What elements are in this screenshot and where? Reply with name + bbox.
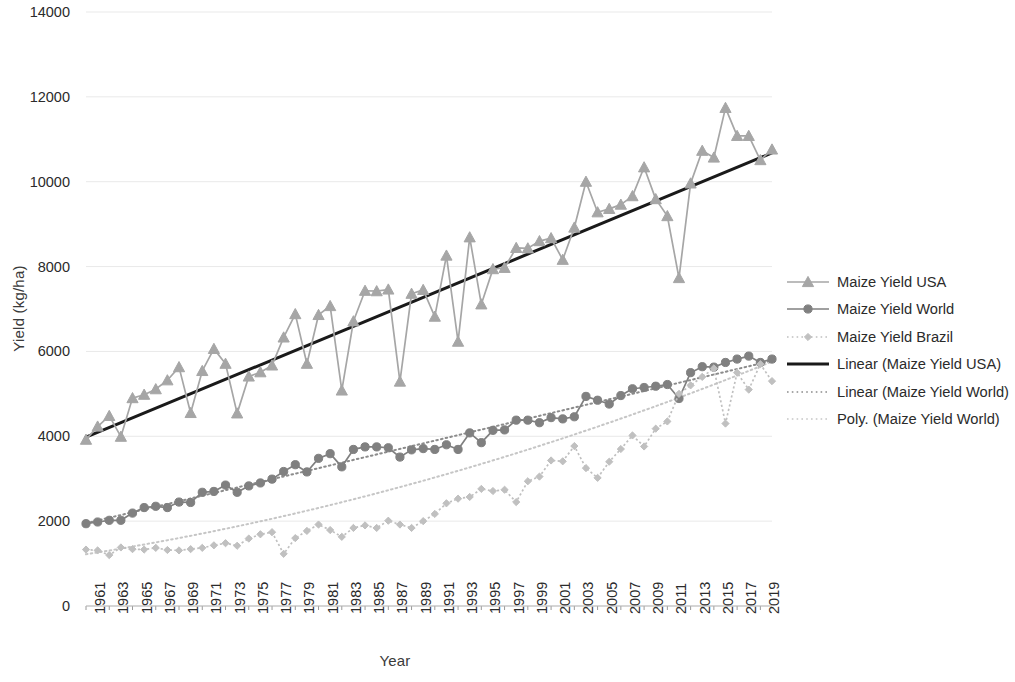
legend-item[interactable]: Linear (Maize Yield USA): [786, 351, 1015, 379]
y-tick-label: 0: [8, 598, 70, 614]
legend-swatch-icon: [786, 412, 830, 426]
x-tick-label: 1973: [232, 582, 248, 614]
x-tick-label: 2001: [557, 582, 573, 614]
trendline: [86, 362, 772, 555]
y-tick-label: 4000: [8, 428, 70, 444]
legend-label: Linear (Maize Yield USA): [837, 356, 1001, 372]
series-maize-yield-world: [82, 352, 776, 528]
legend-swatch-icon: [786, 302, 830, 316]
y-tick-label: 8000: [8, 259, 70, 275]
x-tick-label: 1985: [371, 582, 387, 614]
legend-swatch-icon: [786, 385, 830, 399]
x-tick-label: 2017: [743, 582, 759, 614]
x-tick-label: 2019: [766, 582, 782, 614]
x-tick-label: 2011: [673, 583, 689, 614]
legend-label: Poly. (Maize Yield World): [837, 411, 1000, 427]
legend-item[interactable]: Poly. (Maize Yield World): [786, 406, 1015, 434]
y-tick-label: 10000: [8, 174, 70, 190]
legend-label: Maize Yield World: [837, 301, 954, 317]
x-tick-label: 2013: [697, 582, 713, 614]
x-tick-label: 1967: [162, 582, 178, 614]
x-tick-label: 1999: [534, 582, 550, 614]
legend-item[interactable]: Linear (Maize Yield World): [786, 378, 1015, 406]
x-tick-label: 1993: [464, 582, 480, 614]
legend-item[interactable]: Maize Yield World: [786, 296, 1015, 324]
x-tick-label: 2003: [580, 582, 596, 614]
x-tick-label: 1977: [278, 582, 294, 614]
x-tick-label: 2007: [627, 582, 643, 614]
y-axis-tick-labels: 02000400060008000100001200014000: [8, 0, 70, 682]
x-tick-label: 2005: [604, 582, 620, 614]
y-tick-label: 12000: [8, 89, 70, 105]
legend-item[interactable]: Maize Yield USA: [786, 268, 1015, 296]
legend-label: Linear (Maize Yield World): [837, 384, 1009, 400]
legend-swatch-icon: [786, 330, 830, 344]
y-tick-label: 14000: [8, 4, 70, 20]
x-tick-label: 1995: [487, 582, 503, 614]
legend-label: Maize Yield USA: [837, 274, 946, 290]
x-tick-label: 1991: [441, 582, 457, 614]
x-tick-label: 1981: [325, 582, 341, 614]
chart-legend: Maize Yield USAMaize Yield WorldMaize Yi…: [786, 268, 1015, 433]
x-tick-label: 1997: [511, 582, 527, 614]
x-tick-label: 1989: [418, 582, 434, 614]
y-tick-label: 2000: [8, 513, 70, 529]
x-tick-label: 1961: [92, 582, 108, 614]
x-tick-label: 2015: [720, 582, 736, 614]
x-tick-label: 1971: [208, 582, 224, 614]
legend-item[interactable]: Maize Yield Brazil: [786, 323, 1015, 351]
x-tick-label: 1965: [139, 582, 155, 614]
legend-swatch-icon: [786, 275, 830, 289]
maize-yield-chart: Yield (kg/ha) Year 020004000600080001000…: [0, 0, 1015, 682]
legend-label: Maize Yield Brazil: [837, 329, 953, 345]
x-tick-label: 1979: [301, 582, 317, 614]
x-tick-label: 1975: [255, 582, 271, 614]
x-tick-label: 1987: [394, 582, 410, 614]
x-tick-label: 2009: [650, 582, 666, 614]
x-tick-label: 1983: [348, 582, 364, 614]
x-tick-label: 1969: [185, 582, 201, 614]
legend-swatch-icon: [786, 357, 830, 371]
x-tick-label: 1963: [115, 582, 131, 614]
y-tick-label: 6000: [8, 343, 70, 359]
series-maize-yield-usa: [80, 102, 777, 444]
x-axis-title: Year: [0, 652, 790, 669]
